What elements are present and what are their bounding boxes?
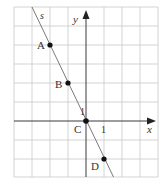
point-label-d: D xyxy=(91,160,99,172)
point-label-c: C xyxy=(74,123,81,135)
point-label-a: A xyxy=(37,39,45,51)
point-a xyxy=(47,42,52,47)
point-label-b: B xyxy=(55,78,62,90)
axes xyxy=(14,17,150,177)
point-c xyxy=(83,118,89,124)
point-b xyxy=(65,80,70,85)
line-s xyxy=(32,7,114,177)
y-axis-arrow-icon xyxy=(83,10,90,19)
line-label-s: s xyxy=(40,10,44,21)
point-d xyxy=(101,156,106,161)
unit-x-label: 1 xyxy=(101,124,106,135)
coordinate-diagram: s y x A B C D 1 1 xyxy=(0,0,165,186)
x-axis-label: x xyxy=(146,123,152,135)
unit-y-label: 1 xyxy=(80,106,85,117)
y-axis-label: y xyxy=(72,13,78,25)
